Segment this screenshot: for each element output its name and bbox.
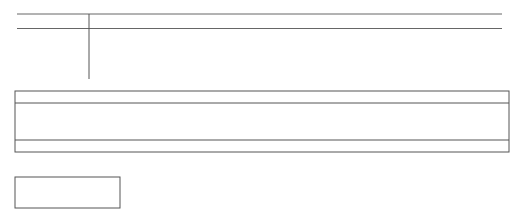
plc-body [15,91,509,152]
inverter-box [15,177,120,208]
power-rails [0,0,502,29]
wiring-diagram [0,0,513,210]
